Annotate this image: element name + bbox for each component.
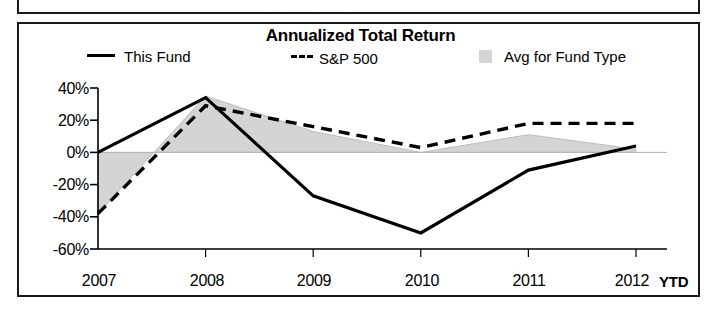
- x-tick-label-2008: 2008: [172, 272, 242, 290]
- plot-area: 40% 20% 0% -20% -40% -60% 2007 2008 2009…: [19, 24, 702, 299]
- y-tick-label-3: -20%: [27, 176, 89, 194]
- y-tick-label-4: -40%: [27, 208, 89, 226]
- x-tick-label-2010: 2010: [387, 272, 457, 290]
- avg-for-fund-type-area: [98, 96, 636, 214]
- x-tick-label-2007: 2007: [64, 272, 134, 290]
- ytd-note: YTD: [659, 273, 688, 290]
- this-fund-line: [98, 98, 636, 233]
- y-tick-label-5: -60%: [27, 241, 89, 259]
- x-tick-label-2012: 2012: [597, 272, 667, 290]
- previous-panel-bottom-edge: [17, 0, 700, 14]
- chart-svg: [19, 24, 702, 299]
- y-tick-label-1: 20%: [27, 112, 89, 130]
- sp500-line: [98, 106, 636, 214]
- y-tick-label-0: 40%: [27, 80, 89, 98]
- y-tick-label-2: 0%: [27, 144, 89, 162]
- x-tick-label-2011: 2011: [494, 272, 564, 290]
- chart-page: Annualized Total Return This Fund S&P 50…: [0, 0, 721, 318]
- x-tick-label-2009: 2009: [279, 272, 349, 290]
- annualized-total-return-panel: Annualized Total Return This Fund S&P 50…: [17, 22, 700, 297]
